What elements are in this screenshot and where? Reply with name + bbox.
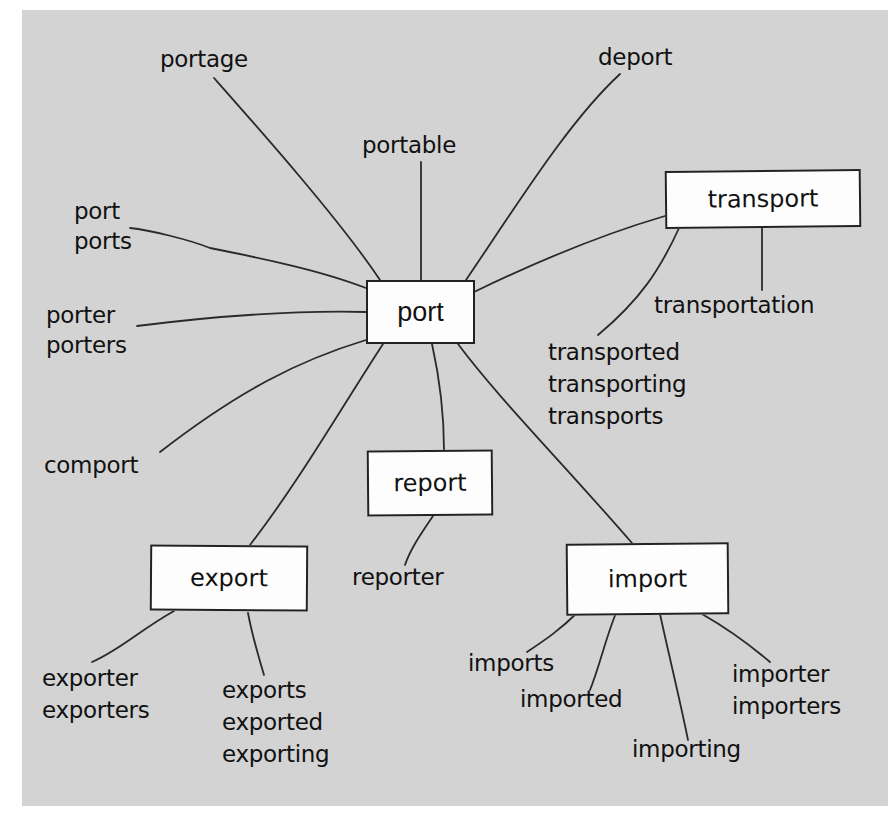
leaf-imported: imported — [520, 684, 622, 715]
leaf-portage: portage — [160, 44, 248, 75]
leaf-portable: portable — [362, 130, 456, 161]
leaf-transportation: transportation — [654, 290, 814, 321]
center-node-port: port — [366, 280, 475, 344]
leaf-deport: deport — [598, 42, 672, 73]
leaf-exporter-group: exporter exporters — [42, 662, 149, 726]
leaf-transported-group: transported transporting transports — [548, 336, 686, 432]
node-transport: transport — [665, 169, 862, 229]
leaf-port-ports: port ports — [74, 196, 132, 256]
leaf-comport: comport — [44, 450, 138, 481]
node-import: import — [566, 542, 730, 615]
leaf-porter-porters: porter porters — [46, 300, 127, 360]
leaf-exports-group: exports exported exporting — [222, 674, 329, 770]
leaf-imports: imports — [468, 648, 554, 679]
leaf-importer-group: importer importers — [732, 658, 841, 722]
node-export: export — [150, 544, 308, 611]
node-report: report — [367, 449, 494, 516]
leaf-reporter: reporter — [352, 562, 443, 593]
leaf-importing: importing — [632, 734, 741, 765]
